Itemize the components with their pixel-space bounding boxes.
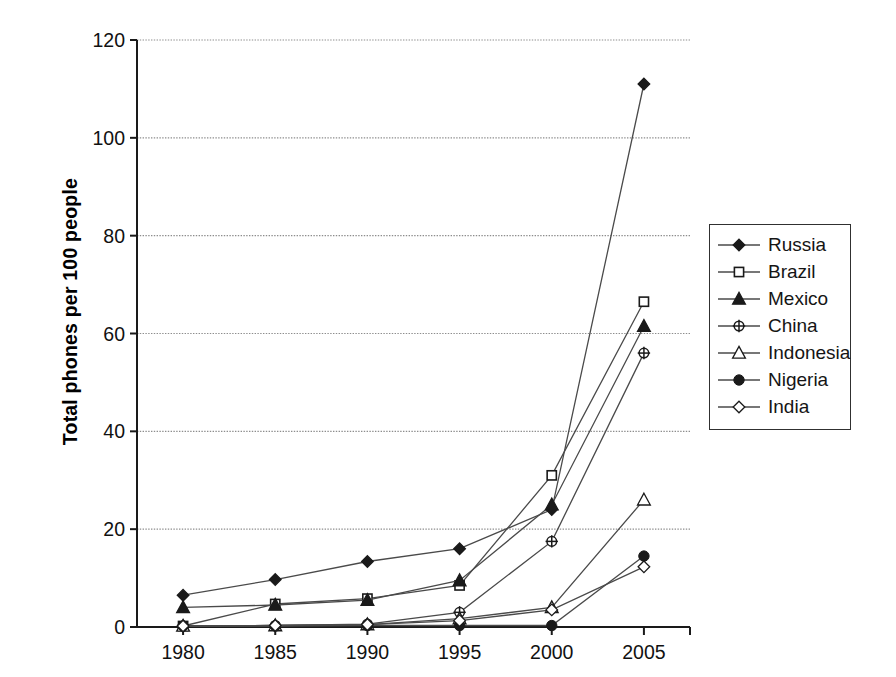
legend-marker-icon <box>716 397 762 417</box>
data-point-marker <box>639 297 648 306</box>
legend-item-india[interactable]: India <box>716 393 842 420</box>
series-nigeria <box>178 551 649 631</box>
data-point-marker <box>546 535 558 547</box>
data-point-marker <box>362 556 374 568</box>
data-point-marker <box>733 292 746 304</box>
legend-item-mexico[interactable]: Mexico <box>716 285 842 312</box>
legend-marker-icon <box>716 370 762 390</box>
data-point-marker <box>546 604 558 616</box>
legend-item-indonesia[interactable]: Indonesia <box>716 339 842 366</box>
chart-figure: Total phones per 100 people 020406080100… <box>0 0 896 677</box>
data-point-marker <box>269 574 281 586</box>
data-point-marker <box>547 471 556 480</box>
data-point-marker <box>639 551 649 561</box>
data-point-marker <box>733 319 745 331</box>
legend-item-russia[interactable]: Russia <box>716 231 842 258</box>
data-point-marker <box>547 620 557 630</box>
legend-marker-icon <box>716 262 762 282</box>
data-point-marker <box>638 561 650 573</box>
data-point-marker <box>638 347 650 359</box>
data-point-marker <box>734 374 744 384</box>
legend-marker-icon <box>716 343 762 363</box>
data-point-marker <box>177 589 189 601</box>
legend-item-brazil[interactable]: Brazil <box>716 258 842 285</box>
legend: RussiaBrazilMexicoChinaIndonesiaNigeriaI… <box>709 224 851 430</box>
data-point-marker <box>454 543 466 555</box>
legend-label: Nigeria <box>762 369 828 391</box>
legend-label: Mexico <box>762 288 828 310</box>
legend-marker-icon <box>716 235 762 255</box>
series-russia <box>177 78 649 601</box>
data-point-marker <box>638 78 650 90</box>
series-brazil <box>178 297 648 631</box>
legend-item-nigeria[interactable]: Nigeria <box>716 366 842 393</box>
series-mexico <box>177 320 651 613</box>
legend-label: Russia <box>762 234 826 256</box>
data-point-marker <box>733 401 745 413</box>
series-china <box>177 347 650 632</box>
legend-label: Indonesia <box>762 342 850 364</box>
legend-label: China <box>762 315 818 337</box>
data-point-marker <box>734 267 743 276</box>
legend-marker-icon <box>716 316 762 336</box>
legend-marker-icon <box>716 289 762 309</box>
data-point-marker <box>638 493 651 505</box>
data-point-marker <box>733 346 746 358</box>
data-point-marker <box>638 320 651 332</box>
data-point-marker <box>733 239 745 251</box>
legend-item-china[interactable]: China <box>716 312 842 339</box>
data-point-marker <box>545 498 558 510</box>
legend-label: Brazil <box>762 261 816 283</box>
legend-label: India <box>762 396 809 418</box>
